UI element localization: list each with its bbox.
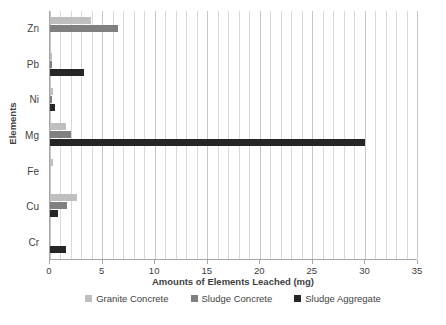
category-label-zn: Zn (0, 11, 45, 47)
bar-pb-sludge-concrete (50, 61, 52, 68)
bar-cu-sludge-aggregate (50, 210, 58, 217)
legend-item-sludge-aggregate[interactable]: Sludge Aggregate (294, 293, 381, 304)
bar-mg-sludge-aggregate (50, 139, 365, 146)
bar-pb-granite-concrete (50, 53, 52, 60)
y-axis-category-labels: ZnPbNiMgFeCuCr (0, 11, 45, 260)
legend-label: Granite Concrete (96, 293, 168, 304)
x-axis-ticks: 05101520253035 (49, 260, 417, 276)
x-tick-label-0: 0 (46, 265, 51, 276)
bar-row-cr (50, 224, 417, 259)
legend-label: Sludge Concrete (202, 293, 273, 304)
x-tick-label-30: 30 (359, 265, 370, 276)
bar-cu-sludge-concrete (50, 202, 67, 209)
category-label-cr: Cr (0, 224, 45, 260)
bar-row-pb (50, 46, 417, 81)
bar-rows (50, 11, 417, 259)
category-label-fe: Fe (0, 153, 45, 189)
bar-cr-sludge-aggregate (50, 246, 66, 253)
x-tick-35 (417, 260, 418, 264)
x-tick-15 (207, 260, 208, 264)
x-tick-0 (49, 260, 50, 264)
x-tick-label-35: 35 (412, 265, 423, 276)
bar-ni-sludge-concrete (50, 96, 52, 103)
legend-label: Sludge Aggregate (305, 293, 381, 304)
x-tick-label-25: 25 (307, 265, 318, 276)
category-label-mg: Mg (0, 118, 45, 154)
bar-row-cu (50, 188, 417, 223)
legend-swatch-icon (85, 295, 92, 302)
x-axis-title: Amounts of Elements Leached (mg) (49, 276, 417, 287)
bar-ni-granite-concrete (50, 88, 53, 95)
x-tick-label-10: 10 (149, 265, 160, 276)
bar-mg-sludge-concrete (50, 131, 71, 138)
legend-item-sludge-concrete[interactable]: Sludge Concrete (191, 293, 273, 304)
bar-mg-granite-concrete (50, 123, 66, 130)
legend-swatch-icon (191, 295, 198, 302)
x-tick-5 (102, 260, 103, 264)
x-tick-25 (312, 260, 313, 264)
bar-chart: Elements ZnPbNiMgFeCuCr 05101520253035 A… (0, 0, 446, 325)
x-tick-30 (364, 260, 365, 264)
x-tick-20 (259, 260, 260, 264)
x-tick-label-20: 20 (254, 265, 265, 276)
legend-swatch-icon (294, 295, 301, 302)
x-tick-label-5: 5 (99, 265, 104, 276)
bar-zn-granite-concrete (50, 17, 91, 24)
bar-row-fe (50, 153, 417, 188)
bar-zn-sludge-concrete (50, 25, 118, 32)
bar-row-ni (50, 82, 417, 117)
bar-fe-granite-concrete (50, 159, 53, 166)
legend-item-granite-concrete[interactable]: Granite Concrete (85, 293, 168, 304)
bar-pb-sludge-aggregate (50, 69, 84, 76)
category-label-ni: Ni (0, 82, 45, 118)
bar-cu-granite-concrete (50, 194, 77, 201)
plot-area (49, 11, 417, 260)
bar-row-mg (50, 117, 417, 152)
x-tick-label-15: 15 (201, 265, 212, 276)
category-label-pb: Pb (0, 47, 45, 83)
bar-row-zn (50, 11, 417, 46)
bar-ni-sludge-aggregate (50, 104, 55, 111)
legend: Granite ConcreteSludge ConcreteSludge Ag… (49, 293, 417, 304)
gridline-35 (417, 11, 418, 259)
category-label-cu: Cu (0, 189, 45, 225)
x-tick-10 (154, 260, 155, 264)
